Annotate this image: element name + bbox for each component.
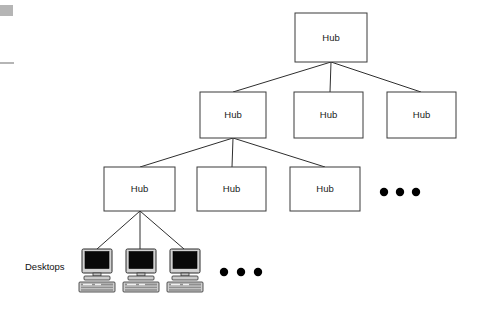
monitor-base bbox=[128, 276, 154, 280]
keyboard-key-row bbox=[125, 289, 157, 291]
node-hub-level2-3[interactable]: Hub bbox=[387, 92, 456, 138]
hub-label: Hub bbox=[322, 32, 339, 43]
monitor-base bbox=[84, 276, 110, 280]
node-hub-level1-1[interactable]: Hub bbox=[295, 13, 367, 62]
keyboard-key-row bbox=[81, 289, 113, 291]
edge-hub2-1-to-hub3-1 bbox=[140, 138, 233, 167]
ellipsis-dot bbox=[237, 268, 245, 276]
keyboard-key-row bbox=[81, 287, 113, 289]
monitor-screen bbox=[129, 252, 153, 269]
monitor-neck bbox=[181, 273, 189, 276]
monitor-screen bbox=[173, 252, 197, 269]
keyboard-key-row bbox=[169, 287, 201, 289]
node-hub-level2-1[interactable]: Hub bbox=[200, 92, 266, 138]
node-hub-level2-2[interactable]: Hub bbox=[294, 92, 363, 138]
hub-label: Hub bbox=[224, 109, 241, 120]
edge-hub3-1-to-desktop-1 bbox=[97, 211, 140, 249]
ellipsis-dot bbox=[254, 268, 262, 276]
keyboard-key bbox=[183, 284, 189, 285]
hub-hierarchy-diagram: Hub Hub Hub Hub Hub Hub Hub bbox=[0, 0, 479, 309]
desktop-computer-3[interactable] bbox=[167, 249, 203, 292]
diagram-canvas: Hub Hub Hub Hub Hub Hub Hub bbox=[0, 0, 479, 309]
hub-label: Hub bbox=[223, 183, 240, 194]
node-hub-level3-3[interactable]: Hub bbox=[290, 167, 360, 211]
ellipsis-dot bbox=[380, 188, 388, 196]
edge-group-level2-level3 bbox=[140, 138, 325, 167]
desktops-group-label: Desktops bbox=[25, 261, 65, 272]
ellipsis-level3 bbox=[380, 188, 420, 196]
desktop-computer-1[interactable] bbox=[79, 249, 115, 292]
keyboard-key bbox=[83, 284, 92, 285]
edge-hub2-1-to-hub3-2 bbox=[232, 138, 233, 167]
keyboard-key bbox=[95, 284, 101, 285]
ellipsis-dot bbox=[396, 188, 404, 196]
node-hub-level3-1[interactable]: Hub bbox=[104, 167, 175, 211]
edge-group-level3-desktops bbox=[97, 211, 184, 249]
edge-hub2-1-to-hub3-3 bbox=[233, 138, 325, 167]
hub-label: Hub bbox=[413, 109, 430, 120]
edge-hub3-1-to-desktop-3 bbox=[140, 211, 184, 249]
monitor-neck bbox=[93, 273, 101, 276]
keyboard-key bbox=[127, 284, 136, 285]
monitor-base bbox=[172, 276, 198, 280]
keyboard-key-row bbox=[125, 287, 157, 289]
edge-hub1-to-hub2-3 bbox=[331, 62, 421, 92]
node-hub-level3-2[interactable]: Hub bbox=[197, 167, 266, 211]
scan-artifact-line bbox=[0, 62, 14, 64]
edge-group-level1-level2 bbox=[233, 62, 421, 92]
edge-hub1-to-hub2-2 bbox=[330, 62, 331, 92]
hub-label: Hub bbox=[131, 183, 148, 194]
scan-artifact-block bbox=[0, 5, 13, 16]
monitor-neck bbox=[137, 273, 145, 276]
ellipsis-desktops bbox=[220, 268, 262, 276]
ellipsis-dot bbox=[220, 268, 228, 276]
edge-hub1-to-hub2-1 bbox=[233, 62, 331, 92]
keyboard-key bbox=[139, 284, 145, 285]
ellipsis-dot bbox=[412, 188, 420, 196]
hub-label: Hub bbox=[320, 109, 337, 120]
hub-label: Hub bbox=[316, 183, 333, 194]
keyboard-key bbox=[171, 284, 180, 285]
desktop-computer-2[interactable] bbox=[123, 249, 159, 292]
monitor-screen bbox=[85, 252, 109, 269]
keyboard-key-row bbox=[169, 289, 201, 291]
